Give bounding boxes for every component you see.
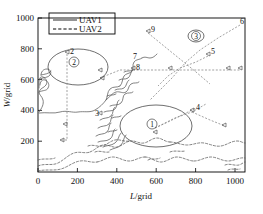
x-axis-ticks: 0 200 400 600 800 1000 [36,168,245,186]
svg-text:W/grid: W/grid [2,82,12,107]
chart-figure: 0 200 400 600 800 1000 200 400 600 800 1… [0,0,263,214]
svg-text:L/grid: L/grid [129,191,153,201]
x-tick-0: 0 [36,176,41,186]
legend-label-uav2: UAV2 [79,24,102,34]
circled-label-2-text: 2 [72,58,76,67]
y-tick-200: 200 [21,136,35,146]
x-tick-1000: 1000 [226,176,245,186]
waypoint-label-7: 7 [133,52,137,61]
circled-label-1-text: 1 [150,120,154,129]
y-axis-title: W/grid [2,82,12,107]
x-axis-title-unit: /grid [135,191,152,201]
y-tick-400: 400 [21,105,35,115]
marker-wp4b [222,123,226,127]
circled-label-1: 1 [147,119,157,129]
region-ellipse-2 [48,49,108,85]
circled-label-2: 2 [69,57,79,67]
marker-wp5 [206,52,210,56]
marker-wp1 [153,130,157,134]
y-tick-600: 600 [21,75,35,85]
marker-wp2b [63,122,67,126]
x-tick-600: 600 [149,176,163,186]
waypoint-label-2: 2 [70,47,74,56]
waypoint-label-9: 9 [151,25,155,34]
marker-right1 [226,66,230,70]
waypoint-label-5: 5 [211,47,215,56]
x-tick-800: 800 [189,176,203,186]
marker-wp9 [146,29,150,33]
uav2-trajectory [38,138,245,171]
waypoint-label-4: 4 [196,103,200,112]
circled-label-3-text: 3 [194,32,198,41]
waypoint-label-3: 3 [95,109,99,118]
marker-mid1 [168,66,172,70]
legend: UAV1 UAV2 [49,13,115,34]
marker-wp4 [190,108,194,112]
x-tick-200: 200 [71,176,85,186]
region-ellipse-1 [120,105,192,147]
waypoint-label-8: 8 [136,63,140,72]
y-tick-1000: 1000 [16,13,35,23]
trajectory-plot: 0 200 400 600 800 1000 200 400 600 800 1… [0,0,263,214]
circled-label-3: 3 [192,32,201,41]
waypoint-label-6: 6 [240,17,244,26]
x-tick-400: 400 [110,176,124,186]
y-tick-800: 800 [21,44,35,54]
marker-right2 [238,66,242,70]
y-axis-title-unit: /grid [2,82,12,99]
marker-wp8a [98,68,102,72]
x-axis-title: L/grid [129,191,153,201]
